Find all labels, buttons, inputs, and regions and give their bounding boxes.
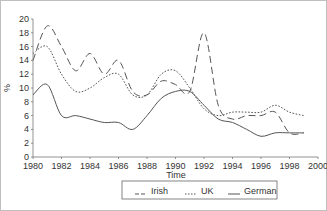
y-tick-label: 12 xyxy=(19,69,29,79)
legend: IrishUKGerman xyxy=(122,181,277,199)
y-tick-label: 6 xyxy=(24,111,29,121)
x-tick-label: 1980 xyxy=(23,161,43,171)
x-tick-label: 1998 xyxy=(279,161,299,171)
series-line-uk xyxy=(33,46,304,116)
x-tick-label: 1982 xyxy=(51,161,71,171)
y-axis-title: % xyxy=(2,84,12,92)
y-tick-label: 14 xyxy=(19,55,29,65)
series-line-irish xyxy=(33,26,304,135)
x-tick-label: 1988 xyxy=(137,161,157,171)
legend-label-german: German xyxy=(244,186,277,196)
x-tick-label: 1992 xyxy=(194,161,214,171)
series-line-german xyxy=(33,84,304,136)
x-tick-label: 1994 xyxy=(222,161,242,171)
line-chart: 0246810121416182019801982198419861988199… xyxy=(0,0,327,211)
y-tick-label: 10 xyxy=(19,83,29,93)
x-axis-title: Time xyxy=(166,170,186,180)
y-tick-label: 2 xyxy=(24,138,29,148)
x-tick-label: 1996 xyxy=(251,161,271,171)
y-tick-label: 18 xyxy=(19,28,29,38)
legend-label-irish: Irish xyxy=(151,186,168,196)
x-tick-label: 1986 xyxy=(108,161,128,171)
x-tick-label: 2000 xyxy=(308,161,327,171)
y-tick-label: 8 xyxy=(24,97,29,107)
x-tick-label: 1984 xyxy=(80,161,100,171)
legend-label-uk: UK xyxy=(201,186,214,196)
y-tick-label: 4 xyxy=(24,124,29,134)
y-tick-label: 20 xyxy=(19,14,29,24)
y-tick-label: 16 xyxy=(19,42,29,52)
series-lines xyxy=(33,26,304,137)
